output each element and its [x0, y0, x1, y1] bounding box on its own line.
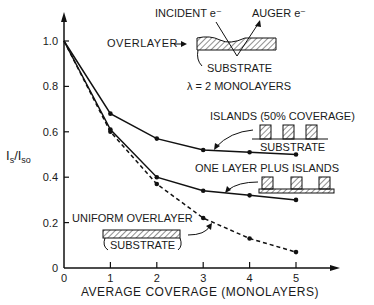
data-point	[201, 148, 206, 153]
x-tick-label: 5	[293, 272, 299, 284]
x-ticks: 012345	[61, 262, 299, 284]
overlayer-schematic: INCIDENT e⁻ AUGER e⁻ OVERLAYER SUBSTRATE…	[107, 7, 306, 92]
y-tick-label: 1.0	[43, 35, 58, 47]
y-ticks: 00.20.40.60.81.0	[43, 35, 69, 274]
islands-schematic: ISLANDS (50% COVERAGE) SUBSTRATE	[210, 110, 355, 153]
data-point	[201, 189, 206, 194]
one-layer-schematic: ONE LAYER PLUS ISLANDS	[195, 162, 339, 193]
data-point	[155, 136, 160, 141]
overlayer-label: OVERLAYER	[107, 37, 178, 49]
y-tick-label: 0.8	[43, 80, 58, 92]
svg-text:SUBSTRATE: SUBSTRATE	[260, 141, 325, 153]
x-axis-arrow-icon	[330, 265, 340, 271]
y-tick-label: 0.2	[43, 217, 58, 229]
svg-text:SUBSTRATE: SUBSTRATE	[110, 239, 175, 251]
x-tick-label: 4	[247, 272, 253, 284]
data-point	[108, 111, 113, 116]
data-point	[247, 236, 252, 241]
auger-label: AUGER e⁻	[252, 7, 306, 19]
data-point	[108, 130, 113, 135]
data-point	[247, 150, 252, 155]
incident-label: INCIDENT e⁻	[155, 7, 222, 19]
x-tick-label: 3	[200, 272, 206, 284]
data-point	[294, 198, 299, 203]
islands-label: ISLANDS (50% COVERAGE)	[210, 110, 355, 122]
data-point	[155, 182, 160, 187]
x-tick-label: 2	[154, 272, 160, 284]
coverage-chart: 00.20.40.60.81.0 012345 Is/Iso AVERAGE C…	[0, 0, 374, 305]
data-point	[247, 193, 252, 198]
x-tick-label: 1	[107, 272, 113, 284]
y-tick-label: 0	[52, 262, 58, 274]
lambda-label: λ = 2 MONOLAYERS	[187, 80, 291, 92]
data-point	[201, 216, 206, 221]
y-tick-label: 0.4	[43, 171, 58, 183]
data-point	[294, 250, 299, 255]
x-tick-label: 0	[61, 272, 67, 284]
one-layer-label: ONE LAYER PLUS ISLANDS	[195, 162, 339, 174]
y-axis-arrow-icon	[61, 12, 67, 22]
substrate-label: SUBSTRATE	[207, 62, 272, 74]
data-point	[155, 175, 160, 180]
uniform-schematic: UNIFORM OVERLAYER SUBSTRATE	[72, 212, 212, 251]
x-axis-label: AVERAGE COVERAGE (MONOLAYERS)	[81, 285, 319, 299]
y-tick-label: 0.6	[43, 126, 58, 138]
y-axis-label: Is/Iso	[6, 148, 31, 165]
uniform-label: UNIFORM OVERLAYER	[72, 212, 193, 224]
